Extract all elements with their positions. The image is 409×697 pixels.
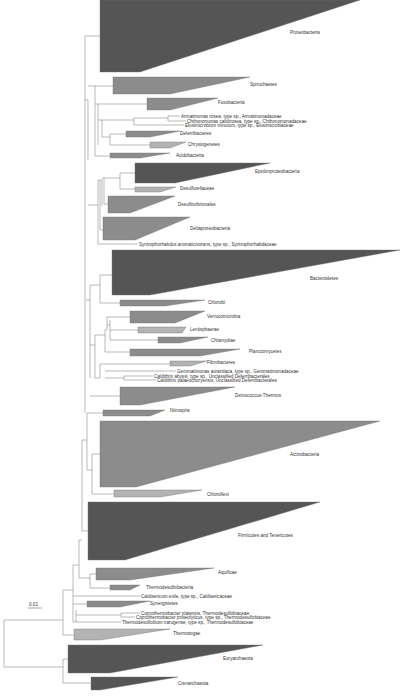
clade-triangle (112, 250, 400, 295)
clade-label: Nitrospira (170, 408, 190, 413)
clade-triangle (96, 568, 214, 580)
clade-label: Acidobacteria (176, 153, 204, 158)
clade-triangle (103, 410, 165, 416)
clade-triangle (88, 502, 320, 560)
clade-actinobacteria: Actinobacteria (100, 421, 380, 487)
clade-label: Chrysiogenetes (188, 142, 221, 147)
clade-chrysiogenetes: Chrysiogenetes (150, 142, 221, 148)
clade-triangle (100, 0, 360, 72)
clade-triangle (113, 77, 250, 94)
clade-triangle (74, 629, 170, 640)
clade-triangle (108, 196, 175, 213)
clade-label: Thermodesulfobacteria (146, 585, 193, 590)
clade-label: Firmicutes and Tenericutes (238, 533, 294, 538)
clade-label: Spirochaetes (250, 82, 278, 87)
clade-nitrospira: Nitrospira (103, 408, 190, 416)
leaf-label: Caldithrix palaeochoryensis, Unclassifie… (157, 378, 277, 383)
scale-bar: 0.01 (28, 602, 42, 608)
leaf-taxon: Caldisericum exile, type sp., Caldiseric… (74, 594, 233, 599)
clade-label: Lentisphaerae (190, 327, 220, 332)
clade-label: Epsilonproteobacteria (255, 169, 300, 174)
clade-triangle (158, 337, 208, 343)
clade-triangle (130, 311, 205, 323)
clade-triangle (130, 349, 240, 356)
clade-acidobacteria: Acidobacteria (110, 153, 204, 158)
clade-verrucomicrobia: Verrucomicrobia (130, 311, 241, 323)
clade-label: Chlamydiae (211, 338, 236, 343)
clade-triangle (120, 300, 205, 306)
clade-synergistetes: Synergistetes (87, 601, 179, 607)
clade-label: Desulfurellaceae (180, 186, 215, 191)
clade-chlamydiae: Chlamydiae (158, 337, 236, 343)
clade-label: Chloroflexi (207, 492, 229, 497)
leaf-label: Elusimicrobium minutum, type sp., Elusim… (185, 123, 294, 128)
leaf-label: Syntrophorhabdus aromaticivorans, type s… (139, 242, 277, 247)
clade-label: Deinococcus-Thermus (235, 393, 282, 398)
clade-label: Proteobacteria (290, 30, 320, 35)
clade-label: Deferribacteres (180, 131, 212, 136)
clade-label: Verrucomicrobia (207, 314, 241, 319)
leaf-taxon: Syntrophorhabdus aromaticivorans, type s… (104, 242, 277, 247)
clade-triangle (135, 187, 176, 192)
clade-planctomycetes: Planctomycetes (130, 349, 282, 356)
clade-label: Thermotogae (173, 631, 201, 636)
clade-label: Fusobacteria (218, 100, 245, 105)
clade-triangle (120, 387, 235, 405)
collapsed-clades: ProteobacteriaSpirochaetesFusobacteriaDe… (68, 0, 400, 690)
clade-fibrobacteres: Fibrobacteres (170, 360, 236, 366)
clade-label: Chlorobi (208, 300, 225, 305)
clade-triangle (110, 585, 140, 590)
leaf-label: Thermodesulfobium narugense, type sp., T… (122, 620, 254, 625)
clade-label: Desulfovibrionales (178, 202, 216, 207)
clade-thermodesulfobacteria: Thermodesulfobacteria (110, 585, 193, 590)
clade-triangle (135, 163, 270, 183)
clade-thermotogae: Thermotogae (74, 629, 201, 640)
clade-label: Actinobacteria (290, 452, 320, 457)
clade-euryarchaeota: Euryarchaeota (68, 645, 263, 673)
clade-bacteroidetes: Bacteroidetes (112, 250, 400, 295)
clade-firmicutes-and-tenericutes: Firmicutes and Tenericutes (88, 502, 320, 560)
clade-proteobacteria: Proteobacteria (100, 0, 360, 72)
clade-triangle (103, 217, 190, 240)
clade-triangle (110, 153, 170, 158)
clade-chloroflexi: Chloroflexi (114, 490, 229, 497)
clade-triangle (91, 677, 178, 690)
clade-label: Fibrobacteres (207, 360, 236, 365)
clade-label: Crenarchaeota (178, 681, 209, 686)
phylogenetic-tree: ProteobacteriaSpirochaetesFusobacteriaDe… (0, 0, 409, 697)
clade-epsilonproteobacteria: Epsilonproteobacteria (135, 163, 300, 183)
scale-bar-label: 0.01 (29, 602, 38, 607)
clade-triangle (150, 142, 186, 148)
clade-triangle (114, 490, 202, 497)
clade-triangle (170, 361, 207, 366)
clade-lentisphaerae: Lentisphaerae (138, 327, 220, 333)
clade-triangle (147, 98, 218, 110)
clade-deferribacteres: Deferribacteres (126, 131, 212, 137)
leaf-taxon: Caldithrix palaeochoryensis, Unclassifie… (146, 378, 277, 383)
leaf-taxon: Thermodesulfobium narugense, type sp., T… (77, 620, 254, 625)
clade-label: Synergistetes (150, 601, 179, 606)
clade-fusobacteria: Fusobacteria (147, 98, 245, 110)
clade-deltaproteobacteria: Deltaproteobacteria (103, 217, 231, 240)
clade-label: Deltaproteobacteria (190, 226, 231, 231)
clade-triangle (100, 421, 380, 487)
clade-deinococcus-thermus: Deinococcus-Thermus (120, 387, 282, 405)
clade-aquificae: Aquificae (96, 568, 237, 580)
clade-spirochaetes: Spirochaetes (113, 77, 278, 94)
clade-triangle (87, 601, 150, 607)
leaf-taxon: Elusimicrobium minutum, type sp., Elusim… (134, 123, 294, 128)
clade-label: Aquificae (218, 570, 237, 575)
clade-label: Bacteroidetes (310, 276, 339, 281)
clade-desulfovibrionales: Desulfovibrionales (108, 196, 216, 213)
clade-desulfurellaceae: Desulfurellaceae (135, 186, 215, 192)
clade-label: Euryarchaeota (223, 656, 253, 661)
clade-label: Planctomycetes (249, 349, 282, 354)
clade-triangle (138, 327, 186, 333)
clade-crenarchaeota: Crenarchaeota (91, 677, 209, 690)
clade-chlorobi: Chlorobi (120, 300, 225, 306)
clade-triangle (126, 131, 180, 137)
leaf-label: Caldisericum exile, type sp., Caldiseric… (141, 594, 233, 599)
